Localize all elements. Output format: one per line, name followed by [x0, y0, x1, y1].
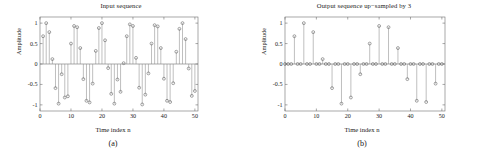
- panel-b-plot-area: 01020304050-1-0.500.51: [285, 17, 445, 111]
- svg-text:40: 40: [161, 113, 167, 119]
- svg-text:50: 50: [192, 113, 198, 119]
- svg-text:20: 20: [345, 113, 351, 119]
- panel-b-xlabel: Time index n: [241, 126, 483, 133]
- svg-text:10: 10: [313, 113, 319, 119]
- panel-a-axes: 01020304050-1-0.500.51: [40, 17, 198, 111]
- svg-text:40: 40: [407, 113, 413, 119]
- svg-text:1: 1: [34, 20, 37, 26]
- panel-b: Output sequence up−sampled by 3 Amplitud…: [243, 0, 485, 158]
- panel-a-title: Input sequence: [0, 2, 242, 9]
- panel-a-plot-area: 01020304050-1-0.500.51: [40, 17, 198, 111]
- panel-a-caption: (a): [0, 139, 234, 148]
- svg-text:0: 0: [279, 61, 282, 67]
- panel-b-title: Output sequence up−sampled by 3: [243, 2, 485, 9]
- svg-text:-1: -1: [277, 102, 282, 108]
- svg-text:-0.5: -0.5: [28, 81, 38, 87]
- svg-text:-0.5: -0.5: [273, 81, 283, 87]
- svg-text:0: 0: [38, 113, 41, 119]
- panel-b-axes: 01020304050-1-0.500.51: [285, 17, 445, 111]
- figure-container: Input sequence Amplitude 01020304050-1-0…: [0, 0, 485, 158]
- panel-a-xlabel: Time index n: [0, 126, 234, 133]
- svg-text:0.5: 0.5: [275, 41, 283, 47]
- svg-text:1: 1: [279, 20, 282, 26]
- svg-text:20: 20: [99, 113, 105, 119]
- svg-text:50: 50: [439, 113, 445, 119]
- panel-a-ylabel: Amplitude: [15, 12, 22, 72]
- svg-text:30: 30: [376, 113, 382, 119]
- svg-text:-1: -1: [32, 102, 37, 108]
- panel-b-caption: (b): [241, 139, 483, 148]
- svg-text:10: 10: [68, 113, 74, 119]
- panel-b-ylabel: Amplitude: [260, 12, 267, 72]
- panel-a: Input sequence Amplitude 01020304050-1-0…: [0, 0, 242, 158]
- svg-text:0: 0: [34, 61, 37, 67]
- svg-text:0.5: 0.5: [30, 41, 38, 47]
- svg-text:0: 0: [283, 113, 286, 119]
- svg-text:30: 30: [130, 113, 136, 119]
